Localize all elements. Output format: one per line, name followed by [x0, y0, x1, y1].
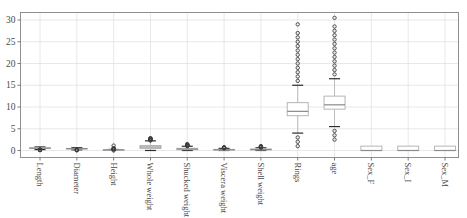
boxplot-figure: 051015202530LengthDiameterHeightWhole we…: [0, 0, 467, 218]
x-tick-label: Whole weight: [145, 163, 155, 212]
box: [398, 146, 419, 150]
x-tick-label: Diameter: [72, 163, 82, 195]
x-tick-label: Shucked weight: [182, 163, 192, 218]
boxplot-column-sex-m: [435, 146, 456, 150]
y-tick-label: 25: [6, 37, 16, 47]
y-tick-label: 30: [6, 15, 16, 25]
y-tick-label: 10: [6, 102, 16, 112]
x-tick-label: age: [330, 163, 340, 175]
y-tick-label: 20: [6, 59, 16, 69]
x-tick-label: Sex_I: [403, 163, 413, 183]
y-tick-label: 5: [11, 124, 16, 134]
boxplot-chart: 051015202530LengthDiameterHeightWhole we…: [0, 0, 467, 218]
box: [361, 146, 382, 150]
x-tick-label: Sex_F: [366, 163, 376, 185]
x-tick-label: Sex_M: [440, 163, 450, 188]
box: [287, 103, 308, 116]
y-tick-label: 0: [11, 146, 16, 156]
y-tick-label: 15: [6, 80, 16, 90]
figure-background: [0, 0, 467, 218]
x-tick-label: Viscera weight: [219, 163, 229, 214]
x-tick-label: Length: [35, 163, 45, 188]
boxplot-column-sex-i: [398, 146, 419, 150]
x-tick-label: Rings: [293, 163, 303, 183]
boxplot-column-sex-f: [361, 146, 382, 150]
x-tick-label: Shell weight: [256, 163, 266, 206]
box: [435, 146, 456, 150]
x-tick-label: Height: [109, 163, 119, 187]
box: [324, 96, 345, 109]
